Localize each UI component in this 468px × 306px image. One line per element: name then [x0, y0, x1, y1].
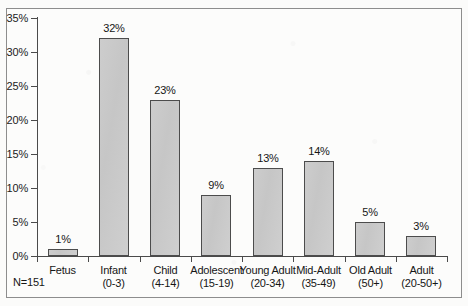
y-axis-tick-label: 0% [0, 251, 28, 262]
bar [253, 168, 283, 256]
category-name: Infant [100, 264, 126, 276]
x-axis-tick [140, 256, 141, 262]
bar-value-label: 5% [345, 207, 395, 218]
y-axis-tick [31, 154, 37, 155]
y-axis-tick-label: 5% [0, 217, 28, 228]
category-name: Fetus [49, 264, 76, 276]
y-axis-tick [31, 222, 37, 223]
bar-value-label: 13% [243, 153, 293, 164]
sample-size-note: N=151 [13, 277, 45, 288]
x-axis-tick [191, 256, 192, 262]
y-axis-line [37, 17, 38, 257]
y-axis-tick-label: 25% [0, 81, 28, 92]
x-axis-tick [345, 256, 346, 262]
x-axis-category-label: Adult(20-50+) [390, 264, 453, 290]
bar [150, 100, 180, 256]
category-name: Old Adult [349, 264, 392, 276]
bar [99, 38, 129, 256]
bar [304, 161, 334, 256]
y-axis-tick [31, 188, 37, 189]
x-axis-tick [37, 256, 38, 262]
x-axis-tick [88, 256, 89, 262]
y-axis-tick [31, 52, 37, 53]
bar-value-label: 3% [396, 221, 446, 232]
category-age-range: (20-50+) [390, 277, 453, 290]
x-axis-tick [447, 256, 448, 262]
category-name: Adolescent [190, 264, 242, 276]
y-axis-tick-label: 20% [0, 115, 28, 126]
y-axis-tick-label: 30% [0, 47, 28, 58]
bar [201, 195, 231, 256]
y-axis-tick [31, 86, 37, 87]
bar [48, 249, 78, 256]
y-axis-tick [31, 18, 37, 19]
y-axis-tick-label: 35% [0, 13, 28, 24]
bar-value-label: 9% [191, 180, 241, 191]
y-axis-tick-label: 15% [0, 149, 28, 160]
bar-value-label: 1% [38, 234, 88, 245]
bar [355, 222, 385, 256]
y-axis-tick-label: 10% [0, 183, 28, 194]
x-axis-tick [242, 256, 243, 262]
category-name: Child [153, 264, 177, 276]
bar-value-label: 14% [294, 146, 344, 157]
bar-value-label: 23% [140, 85, 190, 96]
x-axis-tick [396, 256, 397, 262]
bar-value-label: 32% [89, 23, 139, 34]
category-name: Mid-Adult [296, 264, 341, 276]
y-axis-tick [31, 120, 37, 121]
bar [406, 236, 436, 256]
x-axis-tick [293, 256, 294, 262]
category-name: Adult [409, 264, 433, 276]
bar-chart-figure: 0%5%10%15%20%25%30%35% 1%32%23%9%13%14%5… [0, 0, 468, 306]
